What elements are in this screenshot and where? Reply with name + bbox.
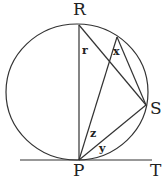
angle-label-r: r <box>82 44 88 57</box>
label-s-point: S <box>150 98 162 118</box>
angle-label-x: x <box>113 45 120 58</box>
angle-label-z: z <box>90 127 96 140</box>
geometry-diagram: R P S T r x z y <box>0 0 167 177</box>
angle-label-y: y <box>98 142 106 155</box>
chord-xs <box>117 37 146 105</box>
circle <box>6 24 148 160</box>
label-p-point: P <box>73 160 84 177</box>
label-r-point: R <box>73 0 87 19</box>
chord-rs <box>79 25 146 105</box>
label-t-point: T <box>150 160 162 177</box>
